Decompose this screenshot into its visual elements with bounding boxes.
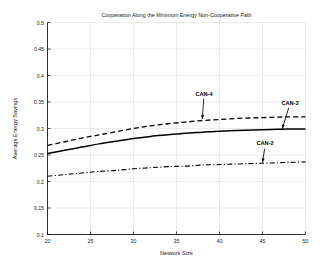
y-tick-label: 0.45 bbox=[34, 46, 44, 52]
chart-figure: 0.10.150.20.250.30.350.40.450.5202530354… bbox=[0, 0, 325, 264]
y-tick-label: 0.35 bbox=[34, 99, 44, 105]
x-axis-label: Network Size bbox=[160, 250, 193, 256]
chart-canvas: 0.10.150.20.250.30.350.40.450.5202530354… bbox=[0, 0, 325, 264]
x-tick-label: 25 bbox=[88, 238, 94, 244]
gridlines bbox=[48, 23, 306, 235]
x-tick-label: 40 bbox=[217, 238, 223, 244]
chart-text-labels: Cooperation Along the Minimum Energy Non… bbox=[12, 12, 252, 256]
y-tick-label: 0.1 bbox=[37, 232, 44, 238]
annotation-label-can-3: CAN-3 bbox=[281, 100, 298, 106]
annotation-arrowhead-can-4 bbox=[201, 115, 204, 119]
annotation-label-can-4: CAN-4 bbox=[195, 91, 213, 97]
annotation-arrowhead-can-3 bbox=[282, 124, 285, 128]
tick-marks: 0.10.150.20.250.30.350.40.450.5202530354… bbox=[34, 20, 309, 244]
y-tick-label: 0.15 bbox=[34, 205, 44, 211]
y-tick-label: 0.3 bbox=[37, 126, 44, 132]
x-tick-label: 50 bbox=[303, 238, 309, 244]
y-axis-label: Average Energy Savings bbox=[12, 98, 18, 160]
chart-title: Cooperation Along the Minimum Energy Non… bbox=[101, 12, 251, 18]
y-tick-label: 0.5 bbox=[37, 20, 44, 26]
y-tick-label: 0.25 bbox=[34, 152, 44, 158]
x-tick-label: 45 bbox=[260, 238, 266, 244]
x-tick-label: 35 bbox=[174, 238, 180, 244]
y-tick-label: 0.4 bbox=[37, 73, 44, 79]
x-tick-label: 30 bbox=[131, 238, 137, 244]
annotation-label-can-2: CAN-2 bbox=[257, 140, 274, 146]
x-tick-label: 20 bbox=[45, 238, 51, 244]
y-tick-label: 0.2 bbox=[37, 179, 44, 185]
series-annotations: CAN-4CAN-3CAN-2 bbox=[195, 91, 298, 163]
annotation-arrowhead-can-2 bbox=[262, 158, 265, 162]
